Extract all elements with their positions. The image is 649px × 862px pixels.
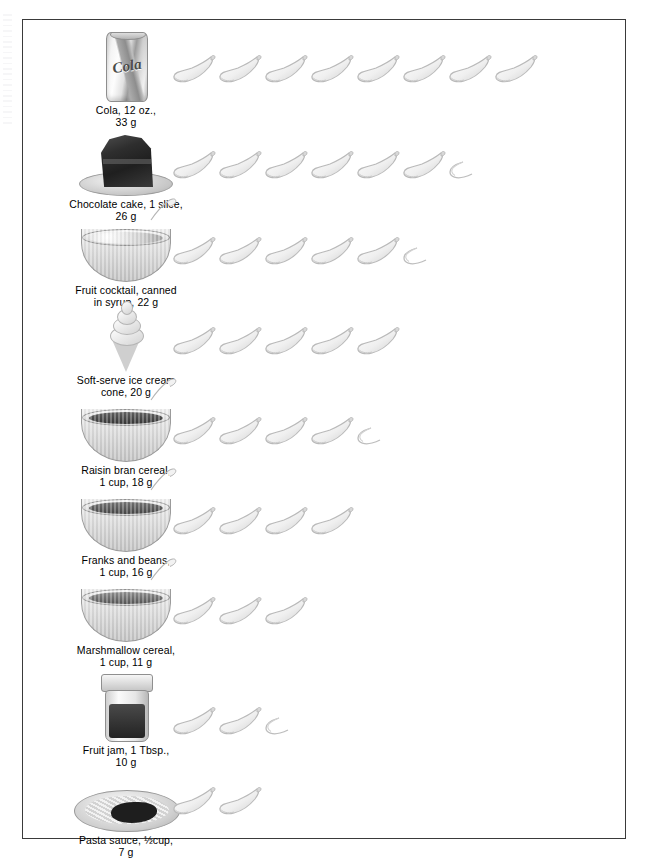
can-brand-text: Cola: [106, 55, 148, 78]
teaspoon-half-icon: [447, 148, 493, 182]
teaspoon-icon: [217, 414, 263, 448]
sauce: [111, 802, 157, 823]
bowl: [81, 589, 171, 642]
teaspoon-icon: [447, 52, 493, 86]
teaspoon-icon: [217, 52, 263, 86]
cake-slice: [101, 135, 153, 187]
pasta: [85, 796, 169, 824]
teaspoon-icon: [217, 324, 263, 358]
teaspoon-icon: [309, 324, 355, 358]
can-top: [110, 32, 146, 40]
teaspoon-icon: [263, 52, 309, 86]
food-image-cola: Cola: [105, 28, 147, 102]
bowl-contents: [89, 502, 163, 514]
food-image-chocolate-cake: [79, 122, 173, 196]
teaspoon-icon: [171, 784, 217, 818]
serving-spoon-icon: [147, 464, 177, 494]
food-caption: Pasta sauce, ½cup, 7 g: [31, 834, 221, 859]
serving-spoon-icon: [147, 554, 177, 584]
teaspoon-icon: [263, 234, 309, 268]
teaspoon-half-icon: [355, 414, 401, 448]
soft-serve-swirl: [108, 302, 144, 346]
teaspoon-strip-cola: [171, 46, 539, 92]
teaspoon-icon: [309, 504, 355, 538]
serving-spoon-icon: [147, 194, 177, 224]
margin-artifact: [3, 14, 12, 124]
teaspoon-icon: [401, 52, 447, 86]
bowl-contents: [89, 592, 163, 604]
teaspoon-icon: [309, 148, 355, 182]
teaspoon-strip-fruit-jam: [171, 698, 309, 744]
cone: [113, 342, 139, 372]
jam-jar: [105, 690, 149, 742]
teaspoon-icon: [171, 234, 217, 268]
bowl: [81, 409, 171, 462]
teaspoon-icon: [263, 414, 309, 448]
teaspoon-icon: [309, 414, 355, 448]
teaspoon-icon: [355, 324, 401, 358]
teaspoon-icon: [217, 234, 263, 268]
teaspoon-icon: [171, 52, 217, 86]
figure-frame: Cola Cola, 12 oz., 33 g: [22, 19, 626, 839]
food-image-raisin-bran: [79, 388, 173, 462]
bowl-rim: [82, 229, 170, 246]
jam-contents: [109, 704, 145, 738]
bowl-rim: [82, 499, 170, 516]
teaspoon-icon: [217, 704, 263, 738]
food-image-soft-serve-cone: [79, 298, 173, 372]
teaspoon-icon: [171, 704, 217, 738]
teaspoon-icon: [171, 324, 217, 358]
bowl-contents: [89, 232, 163, 244]
teaspoon-icon: [171, 504, 217, 538]
plate: [74, 790, 180, 832]
bowl-contents: [89, 412, 163, 424]
teaspoon-icon: [171, 594, 217, 628]
teaspoon-icon: [217, 504, 263, 538]
teaspoon-icon: [217, 148, 263, 182]
teaspoon-icon: [171, 148, 217, 182]
food-caption: Marshmallow cereal, 1 cup, 11 g: [31, 644, 221, 669]
teaspoon-icon: [309, 234, 355, 268]
teaspoon-icon: [309, 52, 355, 86]
teaspoon-half-icon: [263, 704, 309, 738]
teaspoon-half-icon: [401, 234, 447, 268]
food-image-fruit-cocktail: [79, 208, 173, 282]
food-image-pasta-sauce: [72, 758, 180, 832]
teaspoon-icon: [355, 148, 401, 182]
food-image-marshmallow-cereal: [79, 568, 173, 642]
teaspoon-strip-marshmallow-cereal: [171, 588, 309, 634]
teaspoon-icon: [401, 148, 447, 182]
teaspoon-icon: [171, 414, 217, 448]
bowl-rim: [82, 589, 170, 606]
food-image-franks-and-beans: [79, 478, 173, 552]
teaspoon-icon: [263, 504, 309, 538]
food-image-fruit-jam: [79, 668, 173, 742]
teaspoon-icon: [493, 52, 539, 86]
teaspoon-strip-chocolate-cake: [171, 142, 493, 188]
bowl: [81, 229, 171, 282]
teaspoon-icon: [217, 594, 263, 628]
bowl: [81, 499, 171, 552]
bowl-rim: [82, 409, 170, 426]
teaspoon-strip-raisin-bran: [171, 408, 401, 454]
teaspoon-strip-pasta-sauce: [171, 778, 263, 824]
teaspoon-icon: [217, 784, 263, 818]
teaspoon-icon: [355, 234, 401, 268]
teaspoon-icon: [263, 148, 309, 182]
teaspoon-strip-fruit-cocktail: [171, 228, 447, 274]
teaspoon-icon: [263, 594, 309, 628]
teaspoon-icon: [263, 324, 309, 358]
teaspoon-strip-franks-and-beans: [171, 498, 355, 544]
teaspoon-icon: [355, 52, 401, 86]
teaspoon-strip-soft-serve: [171, 318, 401, 364]
serving-spoon-icon: [147, 374, 177, 404]
